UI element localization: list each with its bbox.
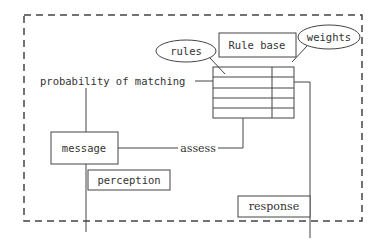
message-label: message [62, 142, 106, 154]
message-node: message [51, 132, 118, 164]
rules-label: rules [170, 45, 202, 57]
rules-node: rules [156, 40, 225, 74]
response-label: response [249, 200, 299, 213]
weights-node: weights [292, 25, 360, 62]
weights-label: weights [307, 31, 351, 43]
assess-label: assess [180, 142, 216, 155]
rule-base-node: Rule base [219, 33, 296, 57]
assess-table-connector [218, 118, 243, 148]
rule-table [213, 67, 294, 118]
perception-label: perception [97, 174, 160, 186]
response-node: response [238, 196, 310, 217]
diagram-canvas: Rule base rules weights probability of m… [0, 0, 384, 250]
rule-base-label: Rule base [229, 39, 286, 51]
perception-node: perception [88, 170, 170, 190]
probability-label: probability of matching [40, 75, 185, 87]
